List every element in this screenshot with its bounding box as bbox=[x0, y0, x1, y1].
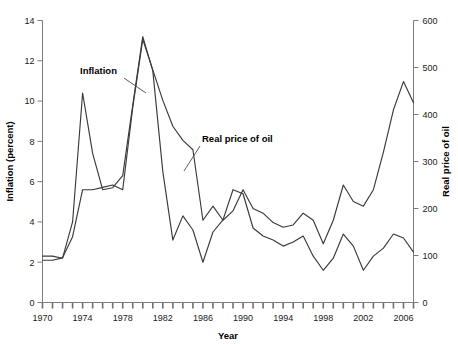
x-tick-label: 1990 bbox=[233, 313, 253, 323]
right-tick-label: 400 bbox=[423, 110, 438, 120]
left-axis-title: Inflation (percent) bbox=[4, 121, 15, 201]
left-tick-label: 4 bbox=[29, 217, 34, 227]
left-tick-label: 12 bbox=[24, 56, 34, 66]
left-tick-label: 14 bbox=[24, 16, 34, 26]
x-tick-label: 1974 bbox=[73, 313, 93, 323]
right-tick-label: 0 bbox=[423, 298, 428, 308]
chart-background bbox=[0, 0, 458, 344]
x-tick-label: 1978 bbox=[113, 313, 133, 323]
right-tick-label: 300 bbox=[423, 157, 438, 167]
x-axis-title: Year bbox=[218, 330, 238, 341]
x-tick-label: 1994 bbox=[273, 313, 293, 323]
left-tick-label: 0 bbox=[29, 298, 34, 308]
left-tick-label: 10 bbox=[24, 96, 34, 106]
right-tick-label: 600 bbox=[423, 16, 438, 26]
inflation-annotation-label: Inflation bbox=[80, 65, 117, 76]
left-tick-label: 6 bbox=[29, 177, 34, 187]
x-tick-label: 2006 bbox=[393, 313, 413, 323]
left-tick-label: 8 bbox=[29, 137, 34, 147]
chart-figure: 02468101214 0100200300400500600 19701974… bbox=[0, 0, 458, 344]
left-tick-label: 2 bbox=[29, 258, 34, 268]
right-axis-title: Real price of oil bbox=[440, 126, 451, 197]
x-tick-label: 2002 bbox=[353, 313, 373, 323]
oil-price-annotation-label: Real price of oil bbox=[202, 133, 273, 144]
x-tick-label: 1970 bbox=[32, 313, 52, 323]
x-tick-label: 1982 bbox=[153, 313, 173, 323]
x-tick-label: 1998 bbox=[313, 313, 333, 323]
right-tick-label: 200 bbox=[423, 204, 438, 214]
right-tick-label: 500 bbox=[423, 63, 438, 73]
right-tick-label: 100 bbox=[423, 251, 438, 261]
x-tick-label: 1986 bbox=[193, 313, 213, 323]
inflation-oil-price-line-chart: 02468101214 0100200300400500600 19701974… bbox=[0, 0, 458, 344]
